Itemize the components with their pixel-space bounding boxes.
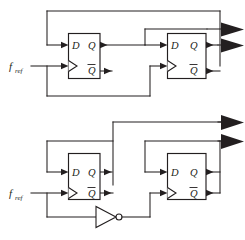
top-circuit: D Q Q D Q Q f ref [9, 11, 244, 96]
output-arrow-bottom-1 [218, 115, 244, 130]
ff1-q-label: Q [88, 40, 96, 51]
flip-flop-2: D Q Q [168, 34, 207, 79]
bottom-q4-arrow [206, 169, 214, 175]
ff1-qbar-label: Q [88, 65, 96, 76]
bottom-circuit: D Q Q D Q Q f ref [9, 115, 244, 228]
ff3-d-label: D [71, 167, 80, 178]
top-fref-label: f ref [9, 60, 24, 75]
ff1-d-label: D [71, 40, 80, 51]
figure-canvas: D Q Q D Q Q f ref [0, 0, 245, 240]
ff2-d-label: D [170, 40, 179, 51]
top-ff2-q-wire [206, 42, 218, 48]
bottom-ff3-qbar-wire [100, 190, 113, 196]
top-clk1-input-arrow [61, 63, 69, 69]
ff3-q-label: Q [88, 167, 96, 178]
flip-flop-4: D Q Q [168, 154, 207, 200]
top-clk2-input-arrow [160, 63, 168, 69]
circuit-diagram-svg: D Q Q D Q Q f ref [0, 0, 245, 240]
top-q1-arrow [100, 42, 108, 48]
bottom-qbar4-arrow [206, 190, 214, 196]
bottom-fref-input-wire [31, 190, 69, 196]
top-fref-main: f [9, 60, 14, 72]
ff3-qbar-label: Q [88, 188, 96, 199]
ff4-q-label: Q [190, 167, 198, 178]
bottom-ff4-qbar-wire [206, 141, 220, 196]
top-d2-input-arrow [160, 42, 168, 48]
bottom-qbar3-arrow [104, 190, 112, 196]
bottom-ff3-q-wire [100, 169, 112, 175]
bottom-fref-label: f ref [9, 187, 24, 202]
inverter-output-wire [122, 190, 168, 217]
bottom-d4-input-arrow [160, 169, 168, 175]
output-arrow-top-1 [207, 23, 244, 37]
flip-flop-1: D Q Q [69, 34, 101, 79]
inverter-gate [96, 207, 122, 228]
top-fref-input-wire [31, 63, 69, 69]
ff4-d-label: D [170, 167, 179, 178]
top-q2-arrow [206, 42, 214, 48]
bottom-clk4-input-arrow [160, 190, 168, 196]
top-qbar2-arrow [206, 68, 214, 74]
top-qbar1-arrow [104, 68, 112, 74]
top-ff1-q-wire [100, 42, 145, 48]
bottom-ff4-q-wire [206, 169, 220, 175]
bottom-fref-main: f [9, 187, 14, 199]
top-d1-input-arrow [61, 42, 69, 48]
bottom-q3-arrow [104, 169, 112, 175]
bottom-clk3-input-arrow [61, 190, 69, 196]
top-ff1-qbar-wire [100, 68, 112, 74]
bottom-fref-sub: ref [15, 194, 24, 202]
top-ff2-qbar-wire [206, 68, 220, 74]
ff4-qbar-label: Q [190, 188, 198, 199]
output-arrow-top-2 [218, 39, 244, 53]
top-bottom-feedback-wire [47, 63, 168, 96]
ff2-q-label: Q [190, 40, 198, 51]
top-fref-sub: ref [15, 67, 24, 75]
output-arrow-bottom-2 [218, 134, 244, 149]
flip-flop-3: D Q Q [69, 154, 101, 200]
ff2-qbar-label: Q [190, 65, 198, 76]
bottom-d3-input-arrow [61, 169, 69, 175]
